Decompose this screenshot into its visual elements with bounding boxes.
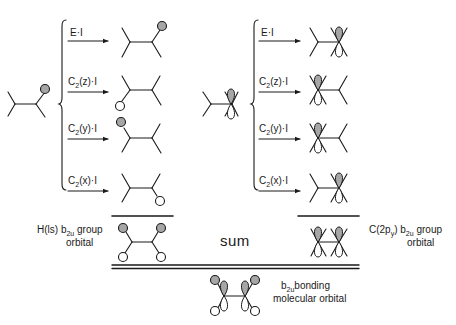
left-result-c2z <box>122 76 161 105</box>
h1s-shaded-orbital <box>41 85 50 94</box>
h1s-b2u-group-orbital <box>125 232 159 253</box>
left-result-e <box>122 28 161 57</box>
left-brace <box>59 20 66 190</box>
molecular-orbital-label: molecular orbital <box>273 293 346 304</box>
right-op-e-label: E·I <box>261 27 274 38</box>
left-result-c2y <box>122 124 161 153</box>
left-result-c2x <box>122 174 160 202</box>
left-op-c2y-label: C2(y)·I <box>68 123 97 135</box>
sum-label: sum <box>220 232 250 249</box>
left-op-c2x-label: C2(x)·I <box>68 175 97 187</box>
c2py-group-orbital-label: C(2py) b2u group <box>369 224 442 236</box>
h1s-group-orbital-label: H(ls) b2u group <box>37 224 103 236</box>
left-op-c2z-label: C2(z)·I <box>68 76 97 88</box>
right-op-c2y-label: C2(y)·I <box>259 123 288 135</box>
right-brace <box>251 20 258 190</box>
right-op-c2x-label: C2(x)·I <box>259 175 288 187</box>
c2py-group-orbital-label-line2: orbital <box>407 237 434 248</box>
right-op-c2z-label: C2(z)·I <box>259 76 288 88</box>
diagram-canvas <box>0 0 456 325</box>
left-op-e-label: E·I <box>70 27 83 38</box>
b2u-bonding-label: b2ubonding <box>281 280 330 292</box>
h1s-group-orbital-label-line2: orbital <box>66 237 93 248</box>
left-source-molecule <box>8 92 45 117</box>
